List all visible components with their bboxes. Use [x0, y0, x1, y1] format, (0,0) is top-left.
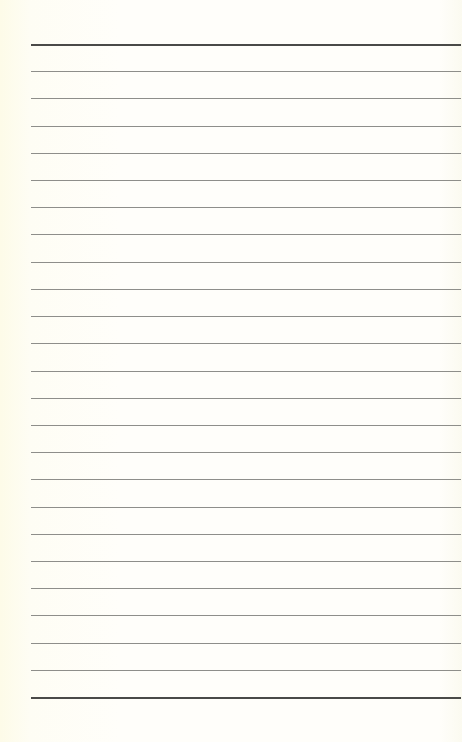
ruled-line: [31, 643, 461, 644]
ruled-line: [31, 153, 461, 154]
ruled-line: [31, 615, 461, 616]
ruled-line: [31, 98, 461, 99]
top-border-line: [31, 44, 461, 46]
ruled-line: [31, 71, 461, 72]
ruled-line: [31, 452, 461, 453]
ruled-line: [31, 588, 461, 589]
ruled-line: [31, 126, 461, 127]
ruled-line: [31, 670, 461, 671]
ruled-line: [31, 507, 461, 508]
ruled-line: [31, 234, 461, 235]
ruled-line: [31, 561, 461, 562]
ruled-line: [31, 479, 461, 480]
ruled-line: [31, 398, 461, 399]
notebook-page: [0, 0, 462, 742]
ruled-line: [31, 289, 461, 290]
ruled-line: [31, 316, 461, 317]
ruled-line: [31, 207, 461, 208]
ruled-line: [31, 262, 461, 263]
ruled-line: [31, 425, 461, 426]
ruled-line: [31, 371, 461, 372]
ruled-line: [31, 343, 461, 344]
ruled-line: [31, 534, 461, 535]
ruled-line: [31, 180, 461, 181]
bottom-border-line: [31, 697, 461, 699]
